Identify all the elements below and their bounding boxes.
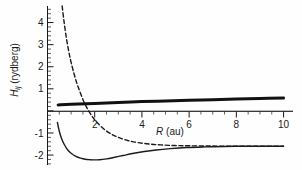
y-tick-label: 4 [38, 17, 44, 28]
x-axis-title: R (au) [156, 126, 184, 137]
y-tick-label: -1 [35, 128, 44, 139]
y-tick-label: 1 [38, 83, 44, 94]
chart-figure: 4321-1-2 246810 R (au) Hij (rydberg) [0, 0, 302, 170]
x-major-ticks [95, 112, 284, 118]
series-coupling-thick-line [58, 98, 283, 105]
x-tick-label: 10 [278, 119, 290, 130]
x-tick-label: 8 [234, 119, 240, 130]
plot-canvas: 4321-1-2 246810 R (au) Hij (rydberg) [0, 0, 302, 170]
x-tick-labels: 246810 [92, 119, 290, 130]
y-major-ticks [48, 23, 54, 156]
y-minor-ticks [48, 9, 52, 164]
y-tick-labels: 4321-1-2 [35, 17, 44, 161]
x-tick-label: 6 [186, 119, 192, 130]
y-tick-label: -2 [35, 150, 44, 161]
y-tick-label: 3 [38, 39, 44, 50]
axes-group [48, 6, 294, 165]
y-axis-title: Hij (rydberg) [9, 43, 22, 97]
y-tick-label: 2 [38, 61, 44, 72]
x-tick-label: 4 [139, 119, 145, 130]
x-tick-label: 2 [92, 119, 98, 130]
